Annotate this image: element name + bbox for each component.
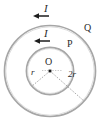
inner-current-label: I bbox=[44, 28, 48, 39]
center-dot bbox=[49, 70, 52, 73]
physics-figure: I I Q P O r 2r bbox=[0, 0, 102, 129]
point-q-label: Q bbox=[84, 23, 91, 33]
inner-current-arrow bbox=[34, 38, 50, 44]
outer-current-label: I bbox=[44, 3, 48, 14]
radius-outer-label: 2r bbox=[68, 70, 76, 79]
center-o-label: O bbox=[45, 57, 52, 67]
outer-current-arrow bbox=[33, 13, 49, 19]
point-p-label: P bbox=[67, 39, 73, 49]
radius-inner-label: r bbox=[31, 68, 35, 77]
